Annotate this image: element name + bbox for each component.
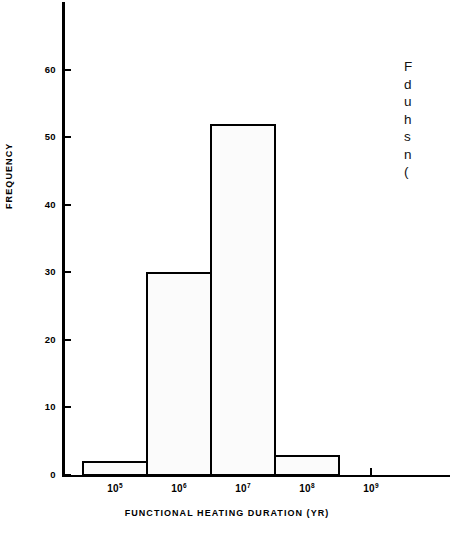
histogram-bar: [82, 461, 148, 476]
y-tick-label: 20: [22, 335, 56, 345]
caption-line: n: [404, 146, 454, 164]
caption-line: (: [404, 163, 454, 181]
y-tick-mark: [62, 474, 71, 476]
y-tick-mark: [62, 271, 71, 273]
y-tick-mark: [62, 204, 71, 206]
y-tick-label: 60: [22, 65, 56, 75]
histogram-bar: [210, 124, 276, 476]
y-tick-label: 30: [22, 267, 56, 277]
x-axis-title: FUNCTIONAL HEATING DURATION (YR): [62, 508, 392, 518]
y-axis-title: FREQUENCY: [2, 59, 16, 209]
caption-line: F: [404, 58, 454, 76]
y-tick-label: 50: [22, 132, 56, 142]
x-tick-label: 105: [92, 483, 138, 494]
caption-line: s: [404, 128, 454, 146]
y-tick-mark: [62, 339, 71, 341]
y-axis-line: [62, 2, 65, 475]
x-tick-label: 106: [156, 483, 202, 494]
y-tick-mark: [62, 136, 71, 138]
y-tick-mark: [62, 69, 71, 71]
figure-caption: Fduhsn(: [404, 58, 454, 181]
y-tick-label: 0: [22, 470, 56, 480]
y-tick-label: 40: [22, 200, 56, 210]
x-tick-label: 109: [348, 483, 394, 494]
y-tick-mark: [62, 406, 71, 408]
histogram-bar: [274, 455, 340, 476]
caption-line: h: [404, 111, 454, 129]
histogram-bar: [146, 272, 212, 476]
x-tick-label: 107: [220, 483, 266, 494]
x-tick-minor: [370, 468, 372, 475]
caption-line: u: [404, 93, 454, 111]
caption-line: d: [404, 76, 454, 94]
x-tick-label: 108: [284, 483, 330, 494]
y-tick-label: 10: [22, 402, 56, 412]
histogram-figure: FREQUENCY 0102030405060 105106107108109 …: [0, 0, 454, 533]
